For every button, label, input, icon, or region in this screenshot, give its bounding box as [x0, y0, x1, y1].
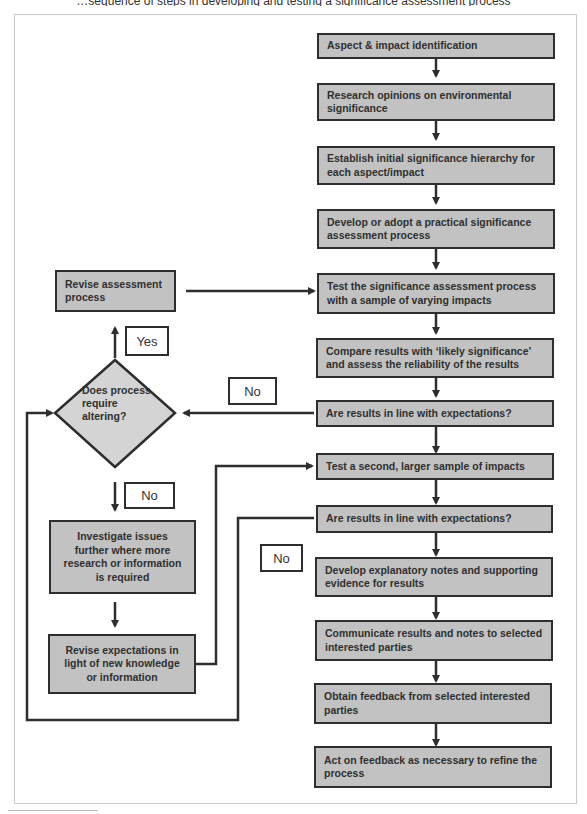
step-compare-results: Compare results with ‘likely significanc… [316, 338, 554, 378]
step-check-expectations-2: Are results in line with expectations? [316, 505, 553, 533]
step-aspect-identification: Aspect & impact identification [317, 33, 555, 59]
step-communicate-results: Communicate results and notes to selecte… [315, 620, 553, 661]
yes-label: Yes [125, 326, 169, 356]
step-check-expectations-1: Are results in line with expectations? [316, 400, 554, 427]
step-act-on-feedback: Act on feedback as necessary to refine t… [314, 746, 552, 788]
no-label-decision: No [124, 482, 175, 509]
step-develop-process: Develop or adopt a practical significanc… [317, 209, 555, 249]
step-initial-hierarchy: Establish initial significance hierarchy… [317, 146, 555, 185]
step-revise-process: Revise assessment process [55, 270, 176, 312]
step-test-second-sample: Test a second, larger sample of impacts [316, 453, 554, 480]
no-label-second-check: No [260, 544, 303, 572]
decision-label: Does process require altering? [82, 384, 152, 423]
step-revise-expectations: Revise expectations in light of new know… [48, 634, 196, 694]
step-obtain-feedback: Obtain feedback from selected interested… [314, 683, 552, 724]
step-test-sample: Test the significance assessment process… [317, 273, 555, 314]
no-label-first-check: No [228, 377, 277, 405]
step-research-opinions: Research opinions on environmental signi… [317, 83, 555, 121]
step-investigate-issues: Investigate issues further where more re… [49, 520, 196, 594]
step-explanatory-notes: Develop explanatory notes and supporting… [315, 557, 553, 597]
